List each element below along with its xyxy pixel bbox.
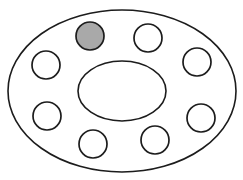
circle-bottom-left bbox=[79, 130, 107, 158]
diagram-canvas bbox=[0, 0, 243, 180]
diagram-root: Hand-drawn ring of eight circles between… bbox=[0, 0, 243, 180]
circle-top-left-shaded bbox=[76, 22, 104, 50]
circle-group bbox=[32, 22, 215, 158]
circle-right-upper bbox=[183, 48, 211, 76]
circle-left-upper bbox=[32, 51, 60, 79]
circle-bottom-right bbox=[141, 126, 169, 154]
circle-left-lower bbox=[33, 102, 61, 130]
outer-ellipse bbox=[8, 10, 236, 172]
circle-top-right bbox=[134, 24, 162, 52]
circle-right-lower bbox=[187, 104, 215, 132]
inner-ellipse bbox=[78, 61, 166, 121]
